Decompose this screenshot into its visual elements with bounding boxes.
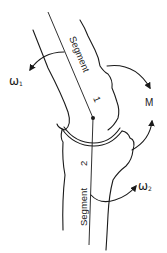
segment-1-right-outline: [80, 20, 119, 130]
segment-2-right-outline: [106, 131, 134, 250]
moment-label: M: [145, 97, 153, 108]
segment-2-number: 2: [78, 161, 89, 166]
omega-2-label: ω2: [138, 179, 152, 193]
omega-1-label: ω1: [9, 74, 23, 88]
segment-2-left-outline: [61, 130, 65, 230]
segment-1-number: 1: [91, 94, 103, 103]
moment-arrow-bottom: [132, 121, 152, 150]
omega-1-arrow: [30, 52, 64, 70]
segment-1-label: Segment: [67, 34, 92, 74]
segment-2-axis: [89, 118, 93, 245]
segment-1-left-outline: [33, 30, 69, 130]
omega-2-arrow: [91, 186, 136, 202]
segment-2-label: Segment: [78, 188, 89, 226]
segment-2-bone: [61, 130, 134, 250]
joint-diagram: Segment 1 2 Segment ω1 M ω2: [0, 0, 167, 253]
moment-arrow-top: [107, 65, 150, 88]
